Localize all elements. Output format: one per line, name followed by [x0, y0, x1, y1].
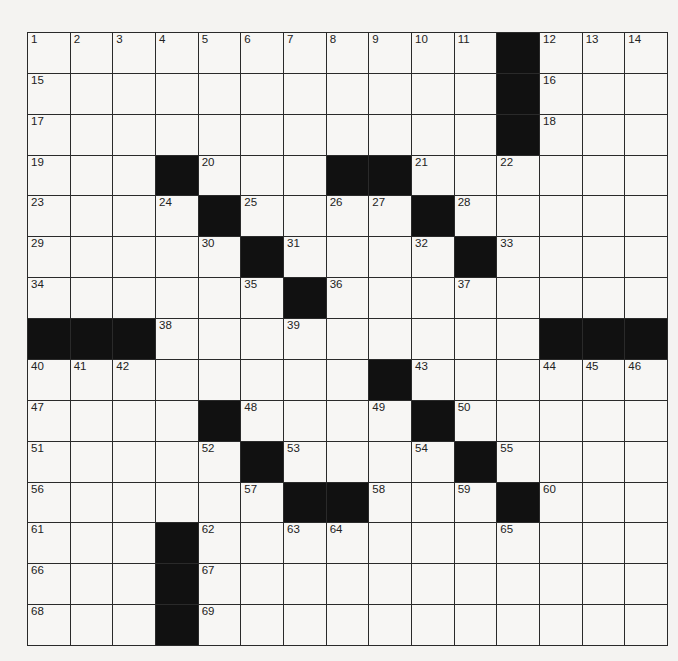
- grid-cell[interactable]: [71, 115, 113, 155]
- grid-cell[interactable]: [455, 605, 497, 645]
- grid-cell[interactable]: [369, 605, 411, 645]
- grid-cell[interactable]: [369, 278, 411, 318]
- grid-cell[interactable]: [540, 605, 582, 645]
- grid-cell[interactable]: [497, 401, 539, 441]
- grid-cell[interactable]: [583, 564, 625, 604]
- grid-cell[interactable]: 51: [28, 442, 70, 482]
- grid-cell[interactable]: 14: [625, 33, 667, 73]
- grid-cell[interactable]: [241, 564, 283, 604]
- grid-cell[interactable]: [497, 605, 539, 645]
- grid-cell[interactable]: [583, 237, 625, 277]
- grid-cell[interactable]: [625, 605, 667, 645]
- grid-cell[interactable]: [583, 278, 625, 318]
- grid-cell[interactable]: [625, 115, 667, 155]
- grid-cell[interactable]: 50: [455, 401, 497, 441]
- grid-cell[interactable]: [412, 278, 454, 318]
- grid-cell[interactable]: [156, 74, 198, 114]
- grid-cell[interactable]: [241, 523, 283, 563]
- grid-cell[interactable]: [327, 564, 369, 604]
- grid-cell[interactable]: [113, 523, 155, 563]
- grid-cell[interactable]: 48: [241, 401, 283, 441]
- grid-cell[interactable]: 26: [327, 196, 369, 236]
- grid-cell[interactable]: [583, 196, 625, 236]
- grid-cell[interactable]: [625, 564, 667, 604]
- grid-cell[interactable]: 69: [199, 605, 241, 645]
- grid-cell[interactable]: [199, 74, 241, 114]
- grid-cell[interactable]: [71, 605, 113, 645]
- grid-cell[interactable]: [71, 74, 113, 114]
- grid-cell[interactable]: [455, 523, 497, 563]
- grid-cell[interactable]: 11: [455, 33, 497, 73]
- grid-cell[interactable]: [156, 278, 198, 318]
- grid-cell[interactable]: [412, 115, 454, 155]
- grid-cell[interactable]: [369, 74, 411, 114]
- grid-cell[interactable]: 34: [28, 278, 70, 318]
- grid-cell[interactable]: [71, 237, 113, 277]
- grid-cell[interactable]: [369, 319, 411, 359]
- grid-cell[interactable]: [583, 605, 625, 645]
- grid-cell[interactable]: 7: [284, 33, 326, 73]
- grid-cell[interactable]: 44: [540, 360, 582, 400]
- grid-cell[interactable]: 13: [583, 33, 625, 73]
- grid-cell[interactable]: 40: [28, 360, 70, 400]
- grid-cell[interactable]: [71, 523, 113, 563]
- grid-cell[interactable]: 27: [369, 196, 411, 236]
- grid-cell[interactable]: 21: [412, 156, 454, 196]
- grid-cell[interactable]: 8: [327, 33, 369, 73]
- grid-cell[interactable]: [625, 74, 667, 114]
- grid-cell[interactable]: [540, 278, 582, 318]
- grid-cell[interactable]: 6: [241, 33, 283, 73]
- grid-cell[interactable]: [497, 564, 539, 604]
- grid-cell[interactable]: [71, 564, 113, 604]
- grid-cell[interactable]: [241, 605, 283, 645]
- grid-cell[interactable]: [156, 442, 198, 482]
- grid-cell[interactable]: 38: [156, 319, 198, 359]
- grid-cell[interactable]: [284, 564, 326, 604]
- grid-cell[interactable]: [241, 74, 283, 114]
- grid-cell[interactable]: 30: [199, 237, 241, 277]
- grid-cell[interactable]: [327, 360, 369, 400]
- grid-cell[interactable]: 9: [369, 33, 411, 73]
- grid-cell[interactable]: 36: [327, 278, 369, 318]
- grid-cell[interactable]: [327, 442, 369, 482]
- grid-cell[interactable]: [369, 564, 411, 604]
- grid-cell[interactable]: [583, 115, 625, 155]
- grid-cell[interactable]: [113, 564, 155, 604]
- grid-cell[interactable]: 55: [497, 442, 539, 482]
- grid-cell[interactable]: [497, 196, 539, 236]
- grid-cell[interactable]: 10: [412, 33, 454, 73]
- grid-cell[interactable]: [156, 237, 198, 277]
- grid-cell[interactable]: 62: [199, 523, 241, 563]
- grid-cell[interactable]: 16: [540, 74, 582, 114]
- grid-cell[interactable]: [284, 605, 326, 645]
- grid-cell[interactable]: 56: [28, 483, 70, 523]
- grid-cell[interactable]: [199, 319, 241, 359]
- grid-cell[interactable]: 33: [497, 237, 539, 277]
- grid-cell[interactable]: [241, 360, 283, 400]
- grid-cell[interactable]: 37: [455, 278, 497, 318]
- grid-cell[interactable]: [540, 156, 582, 196]
- grid-cell[interactable]: 19: [28, 156, 70, 196]
- grid-cell[interactable]: [497, 360, 539, 400]
- grid-cell[interactable]: [412, 319, 454, 359]
- grid-cell[interactable]: [113, 401, 155, 441]
- grid-cell[interactable]: 60: [540, 483, 582, 523]
- grid-cell[interactable]: [625, 237, 667, 277]
- grid-cell[interactable]: [113, 74, 155, 114]
- grid-cell[interactable]: [625, 278, 667, 318]
- grid-cell[interactable]: [497, 278, 539, 318]
- grid-cell[interactable]: [625, 483, 667, 523]
- grid-cell[interactable]: 32: [412, 237, 454, 277]
- grid-cell[interactable]: 64: [327, 523, 369, 563]
- grid-cell[interactable]: [327, 115, 369, 155]
- grid-cell[interactable]: 42: [113, 360, 155, 400]
- grid-cell[interactable]: 67: [199, 564, 241, 604]
- grid-cell[interactable]: [497, 319, 539, 359]
- grid-cell[interactable]: 49: [369, 401, 411, 441]
- grid-cell[interactable]: [625, 401, 667, 441]
- grid-cell[interactable]: [327, 319, 369, 359]
- grid-cell[interactable]: 1: [28, 33, 70, 73]
- grid-cell[interactable]: [71, 483, 113, 523]
- grid-cell[interactable]: [625, 196, 667, 236]
- grid-cell[interactable]: [241, 319, 283, 359]
